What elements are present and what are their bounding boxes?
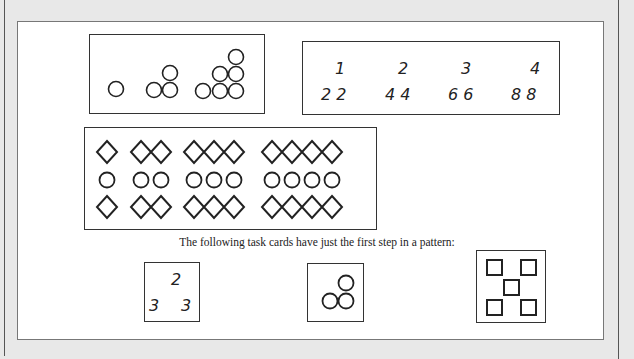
task-card-circles: [307, 263, 364, 322]
number-bottom-2: 4 4: [385, 85, 410, 104]
task-card-number-left: 3: [149, 296, 159, 315]
five-squares-icon: [477, 251, 547, 324]
task-card-numbers: 2 3 3: [144, 262, 200, 322]
number-top-2: 2: [398, 59, 408, 78]
number-bottom-4: 8 8: [511, 85, 536, 104]
number-top-1: 1: [335, 59, 345, 78]
task-card-number-right: 3: [181, 296, 191, 315]
task-card-squares: [476, 250, 546, 323]
three-circles-icon: [308, 264, 365, 323]
task-cards-caption: The following task cards have just the f…: [0, 236, 634, 248]
number-bottom-1: 2 2: [321, 85, 346, 104]
circles-pattern-icon: [90, 35, 266, 115]
left-border-line: [4, 0, 5, 356]
right-border-line: [618, 0, 619, 359]
task-card-number-top: 2: [171, 270, 181, 289]
number-top-4: 4: [530, 59, 540, 78]
number-top-3: 3: [461, 59, 471, 78]
numbers-pattern-svg: 1 2 3 4 2 2 4 4 6 6 8 8: [303, 42, 561, 116]
task-card-numbers-svg: 2 3 3: [145, 263, 201, 323]
diamonds-pattern-box: [84, 127, 377, 230]
number-bottom-3: 6 6: [448, 85, 473, 104]
numbers-pattern-box: 1 2 3 4 2 2 4 4 6 6 8 8: [302, 41, 560, 115]
circles-pattern-box: [89, 34, 265, 114]
diamonds-pattern-icon: [85, 128, 378, 231]
